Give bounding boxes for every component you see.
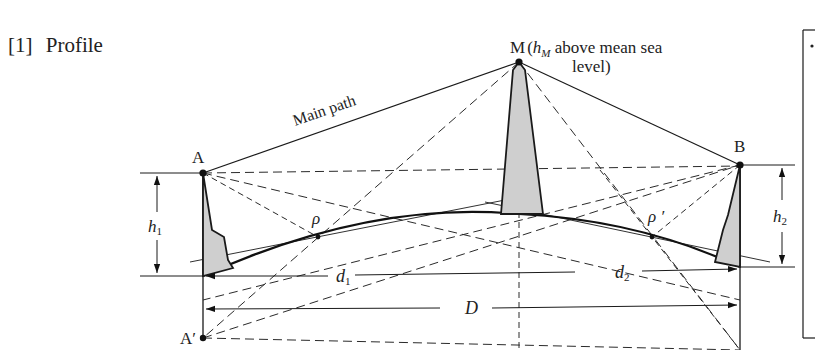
label-main-path: Main path xyxy=(290,91,358,129)
section-number: [1] xyxy=(8,33,33,57)
label-a: A xyxy=(192,148,205,167)
main-path-lines xyxy=(203,62,740,173)
label-m-level: level) xyxy=(572,57,611,76)
label-d2: d2 xyxy=(615,262,630,283)
side-frame xyxy=(803,30,815,338)
label-m: M(hM above mean sea xyxy=(510,38,663,59)
construction-lines xyxy=(190,62,770,350)
section-title: [1] Profile xyxy=(8,33,103,57)
label-b: B xyxy=(734,137,745,156)
label-total-distance: D xyxy=(464,298,478,318)
label-a-prime: A′ xyxy=(180,329,196,348)
label-h2: h2 xyxy=(773,207,787,227)
label-h1: h1 xyxy=(148,217,162,237)
point-rho-prime xyxy=(650,235,655,240)
label-rho-prime: ρ ′ xyxy=(647,207,664,226)
point-a xyxy=(199,169,206,176)
label-d1: d1 xyxy=(336,266,351,287)
point-b xyxy=(736,161,743,168)
section-label: Profile xyxy=(46,33,103,57)
point-m xyxy=(515,58,522,65)
profile-diagram: [1] Profile A A′ B M(hM above mean sea l… xyxy=(0,0,815,350)
point-a-prime xyxy=(200,335,206,341)
point-rho xyxy=(316,235,321,240)
label-rho: ρ xyxy=(311,209,320,228)
